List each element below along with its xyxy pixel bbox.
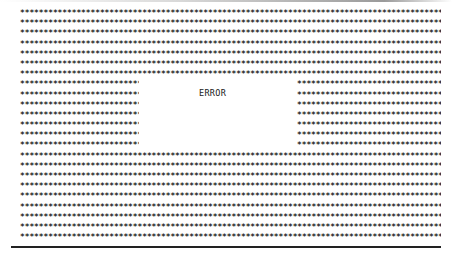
- pattern-row-split: ****************************************…: [20, 90, 442, 100]
- pattern-row-split: ****************************************…: [20, 100, 442, 110]
- pattern-text: ****************************************…: [20, 161, 441, 171]
- pattern-text-left: ****************************: [20, 79, 139, 89]
- pattern-text: ****************************************…: [20, 49, 441, 59]
- bottom-border: [11, 246, 441, 248]
- pattern-row: ****************************************…: [20, 18, 442, 28]
- pattern-text: ****************************************…: [20, 191, 441, 201]
- pattern-text-right: *********************************: [297, 79, 441, 89]
- pattern-text: ****************************************…: [20, 212, 441, 222]
- pattern-text: ****************************************…: [20, 202, 441, 212]
- pattern-text: ****************************************…: [20, 28, 441, 38]
- pattern-text-left: ****************************: [20, 110, 139, 120]
- top-border: [0, 0, 452, 2]
- pattern-row-split: ****************************************…: [20, 79, 442, 89]
- pattern-text: ****************************************…: [20, 222, 441, 232]
- pattern-text-right: *********************************: [297, 120, 441, 130]
- pattern-row: ****************************************…: [20, 222, 442, 232]
- pattern-text-left: ****************************: [20, 140, 139, 150]
- pattern-text-left: ****************************: [20, 120, 139, 130]
- pattern-row: ****************************************…: [20, 202, 442, 212]
- pattern-text: ****************************************…: [20, 232, 441, 242]
- pattern-row: ****************************************…: [20, 232, 442, 242]
- pattern-text: ****************************************…: [20, 18, 441, 28]
- pattern-text-right: *********************************: [297, 130, 441, 140]
- pattern-row: ****************************************…: [20, 171, 442, 181]
- pattern-row: ****************************************…: [20, 49, 442, 59]
- pattern-text: ****************************************…: [20, 151, 441, 161]
- pattern-text-left: ****************************: [20, 130, 139, 140]
- pattern-text-right: *********************************: [297, 140, 441, 150]
- pattern-row-split: ****************************************…: [20, 130, 442, 140]
- error-message: ERROR: [199, 88, 226, 98]
- pattern-row: ****************************************…: [20, 8, 442, 18]
- pattern-row: ****************************************…: [20, 181, 442, 191]
- pattern-row-split: ****************************************…: [20, 120, 442, 130]
- pattern-text-right: *********************************: [297, 110, 441, 120]
- pattern-row-split: ****************************************…: [20, 110, 442, 120]
- pattern-text-right: *********************************: [297, 90, 441, 100]
- pattern-text-left: ****************************: [20, 100, 139, 110]
- pattern-row: ****************************************…: [20, 212, 442, 222]
- pattern-row: ****************************************…: [20, 69, 442, 79]
- pattern-row: ****************************************…: [20, 161, 442, 171]
- pattern-text: ****************************************…: [20, 171, 441, 181]
- pattern-row: ****************************************…: [20, 59, 442, 69]
- pattern-text: ****************************************…: [20, 181, 441, 191]
- pattern-row-split: ****************************************…: [20, 140, 442, 150]
- pattern-text: ****************************************…: [20, 39, 441, 49]
- asterisk-pattern: ****************************************…: [20, 8, 442, 242]
- pattern-text: ****************************************…: [20, 59, 441, 69]
- pattern-text: ****************************************…: [20, 8, 441, 18]
- pattern-row: ****************************************…: [20, 39, 442, 49]
- pattern-row: ****************************************…: [20, 28, 442, 38]
- pattern-row: ****************************************…: [20, 151, 442, 161]
- pattern-text: ****************************************…: [20, 69, 441, 79]
- pattern-text-right: *********************************: [297, 100, 441, 110]
- pattern-row: ****************************************…: [20, 191, 442, 201]
- pattern-text-left: ****************************: [20, 90, 139, 100]
